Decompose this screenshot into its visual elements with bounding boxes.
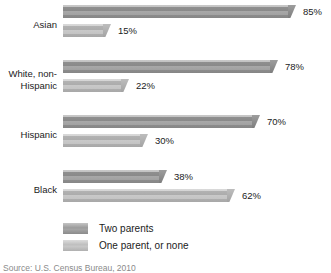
value-label-white-two-parents: 78% xyxy=(285,60,304,73)
bar-end-cap xyxy=(270,60,278,73)
plot-area: Asian 85% 15% White, non- Hispanic xyxy=(0,0,331,218)
category-label-black: Black xyxy=(0,184,57,196)
source-note: Source: U.S. Census Bureau, 2010 xyxy=(3,263,136,273)
legend-label-one-parent: One parent, or none xyxy=(99,239,189,252)
bar-body xyxy=(63,5,289,18)
bar-body xyxy=(63,189,228,202)
bar-group-asian: Asian 85% 15% xyxy=(0,0,331,55)
bar-body xyxy=(63,170,160,183)
value-label-asian-one-parent: 15% xyxy=(118,24,137,37)
bar-end-cap xyxy=(159,170,167,183)
bar-end-cap xyxy=(252,115,260,128)
bar-end-cap xyxy=(227,189,235,202)
bar-group-black: Black 38% 62% xyxy=(0,165,331,220)
legend-swatch-icon xyxy=(63,240,88,251)
value-label-black-one-parent: 62% xyxy=(242,189,261,202)
legend-label-two-parents: Two parents xyxy=(99,222,153,235)
bar-body xyxy=(63,79,122,92)
legend-swatch-icon xyxy=(63,223,88,234)
category-label-asian: Asian xyxy=(0,19,57,31)
legend-item-two-parents[interactable]: Two parents xyxy=(63,222,323,237)
category-label-white-non-hispanic: White, non- Hispanic xyxy=(0,68,57,91)
category-label-hispanic: Hispanic xyxy=(0,129,57,141)
bar-body xyxy=(63,60,271,73)
value-label-asian-two-parents: 85% xyxy=(303,5,322,18)
bar-body xyxy=(63,115,253,128)
bar-end-cap xyxy=(140,134,148,147)
bar-end-cap xyxy=(288,5,296,18)
bar-body xyxy=(63,134,141,147)
legend-item-one-parent[interactable]: One parent, or none xyxy=(63,239,323,254)
value-label-black-two-parents: 38% xyxy=(174,170,193,183)
value-label-hispanic-two-parents: 70% xyxy=(267,115,286,128)
value-label-white-one-parent: 22% xyxy=(136,79,155,92)
chart-legend: Two parents One parent, or none xyxy=(63,222,323,256)
bar-group-white-non-hispanic: White, non- Hispanic 78% 22% xyxy=(0,55,331,110)
bar-body xyxy=(63,24,104,37)
bar-end-cap xyxy=(121,79,129,92)
bar-end-cap xyxy=(103,24,111,37)
value-label-hispanic-one-parent: 30% xyxy=(155,134,174,147)
bar-group-hispanic: Hispanic 70% 30% xyxy=(0,110,331,165)
